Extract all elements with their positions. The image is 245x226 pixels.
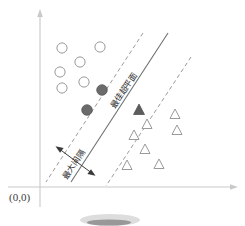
y-axis-arrowhead	[37, 9, 43, 17]
open-triangle-point	[142, 119, 152, 129]
left-margin-boundary-line	[46, 33, 143, 182]
open-triangle-point	[140, 144, 150, 154]
circle-class-group	[55, 42, 105, 93]
triangle-support-vector-group	[134, 104, 145, 115]
triangle-class-group	[122, 109, 182, 170]
svm-diagram-canvas: 最佳超平面 最大间隔 (0,0)	[0, 0, 245, 226]
open-circle-point	[57, 83, 67, 93]
axes-group	[8, 9, 238, 207]
filled-circle-support-vector	[97, 85, 108, 96]
open-triangle-point	[170, 109, 180, 119]
filled-triangle-support-vector	[134, 104, 145, 115]
open-circle-point	[79, 77, 89, 87]
optimal-hyperplane-label: 最佳超平面	[108, 70, 139, 110]
bottom-smudge-halo	[80, 214, 140, 226]
x-axis-arrowhead	[230, 184, 238, 190]
circle-support-vector-group	[82, 85, 108, 116]
open-circle-point	[55, 67, 65, 77]
origin-label: (0,0)	[9, 191, 30, 204]
open-triangle-point	[154, 159, 164, 169]
open-circle-point	[57, 43, 67, 53]
bottom-cropped-artifact	[80, 214, 140, 226]
open-triangle-point	[129, 130, 139, 140]
open-triangle-point	[122, 160, 132, 170]
svm-diagram-figure: 最佳超平面 最大间隔 (0,0)	[0, 0, 245, 226]
filled-circle-support-vector	[82, 105, 93, 116]
open-circle-point	[75, 57, 85, 67]
open-triangle-point	[172, 125, 182, 135]
open-circle-point	[95, 42, 105, 52]
